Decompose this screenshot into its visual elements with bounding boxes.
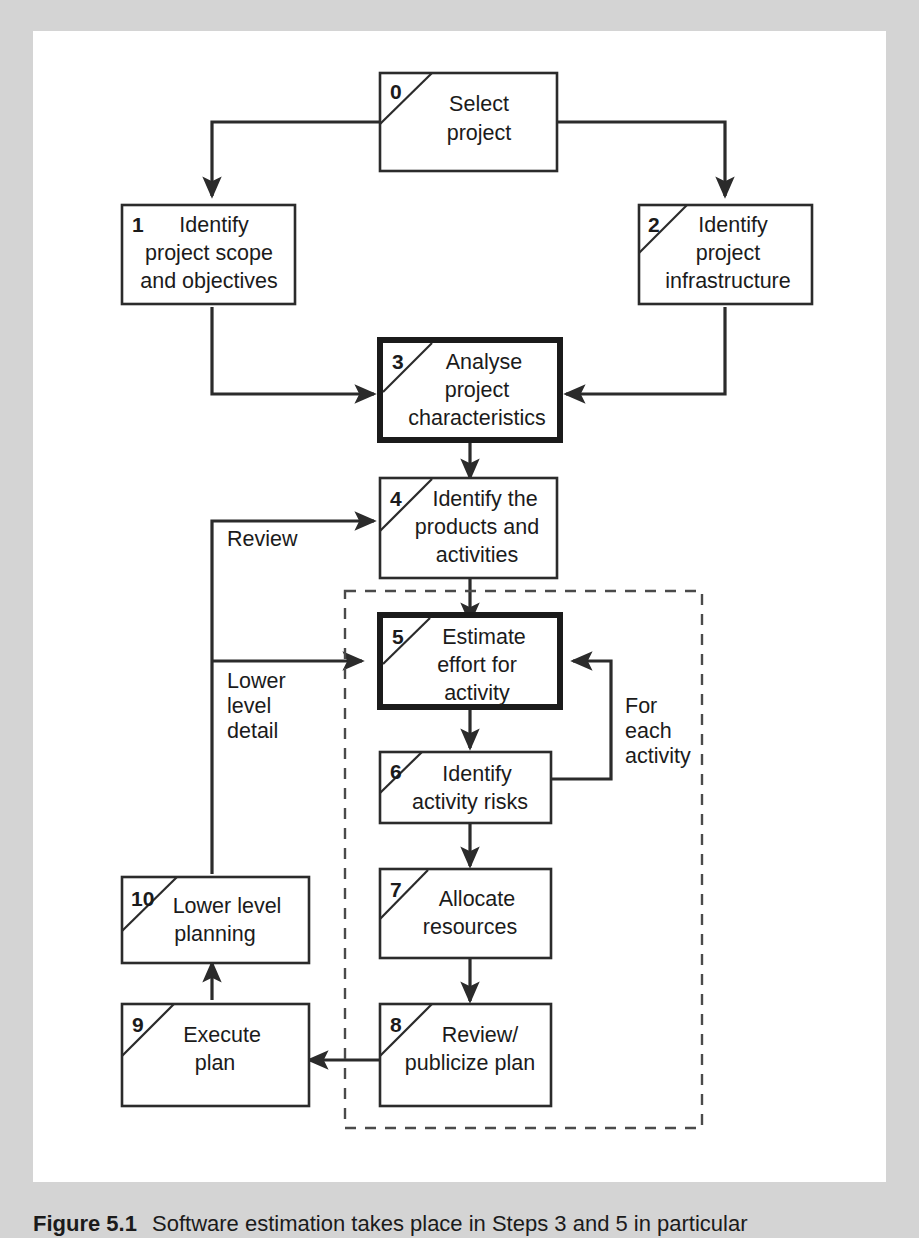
node-7[interactable]: 7 Allocate resources bbox=[380, 869, 551, 958]
node-3-label-line3: characteristics bbox=[408, 406, 545, 430]
node-3[interactable]: 3 Analyse project characteristics bbox=[380, 340, 560, 440]
node-5-label: Estimate bbox=[442, 625, 526, 649]
node-3-label: Analyse bbox=[446, 350, 523, 374]
node-0[interactable]: 0 Select project bbox=[380, 73, 557, 171]
node-0-label: Select bbox=[449, 92, 509, 116]
node-8-label-line2: publicize plan bbox=[405, 1051, 535, 1075]
node-2[interactable]: 2 Identify project infrastructure bbox=[639, 205, 812, 304]
node-4[interactable]: 4 Identify the products and activities bbox=[380, 478, 557, 578]
edge-label-lower-level-line2: level bbox=[227, 694, 271, 718]
edge-0-to-1 bbox=[212, 122, 380, 196]
edge-2-to-3 bbox=[566, 307, 725, 394]
node-7-label-line2: resources bbox=[423, 915, 517, 939]
node-5-number: 5 bbox=[392, 625, 404, 648]
node-8-label: Review/ bbox=[442, 1023, 518, 1047]
node-10-number: 10 bbox=[131, 887, 154, 910]
node-7-label: Allocate bbox=[439, 887, 516, 911]
node-3-number: 3 bbox=[392, 350, 404, 373]
node-5-label-line3: activity bbox=[444, 681, 510, 705]
node-1-label: Identify bbox=[179, 213, 249, 237]
edge-label-for-each-line1: For bbox=[625, 694, 657, 718]
caption-number: Figure 5.1 bbox=[33, 1211, 137, 1236]
node-1-number: 1 bbox=[132, 213, 144, 236]
node-6-label-line2: activity risks bbox=[412, 790, 528, 814]
edge-label-for-each-line2: each bbox=[625, 719, 672, 743]
figure-caption: Figure 5.1 Software estimation takes pla… bbox=[33, 1211, 748, 1236]
node-9-label: Execute bbox=[183, 1023, 261, 1047]
node-2-label-line2: project bbox=[696, 241, 761, 265]
node-2-number: 2 bbox=[648, 213, 660, 236]
node-5-label-line2: effort for bbox=[437, 653, 517, 677]
node-8[interactable]: 8 Review/ publicize plan bbox=[380, 1004, 551, 1106]
node-4-number: 4 bbox=[390, 487, 402, 510]
node-9-label-line2: plan bbox=[195, 1051, 236, 1075]
node-9[interactable]: 9 Execute plan bbox=[122, 1004, 309, 1106]
node-10-label-line2: planning bbox=[174, 922, 255, 946]
node-6-number: 6 bbox=[390, 760, 402, 783]
node-0-number: 0 bbox=[390, 80, 402, 103]
node-10-label: Lower level bbox=[173, 894, 282, 918]
edge-label-lower-level-detail: Lower level detail bbox=[227, 669, 286, 743]
node-8-number: 8 bbox=[390, 1013, 402, 1036]
node-5[interactable]: 5 Estimate effort for activity bbox=[380, 615, 560, 707]
node-4-label-line3: activities bbox=[436, 543, 518, 567]
figure-page: 0 Select project 1 Identify project scop… bbox=[0, 0, 919, 1238]
node-7-number: 7 bbox=[390, 878, 402, 901]
node-7-box[interactable] bbox=[380, 869, 551, 958]
edge-label-for-each-activity: For each activity bbox=[625, 694, 691, 768]
edge-label-for-each-line3: activity bbox=[625, 744, 691, 768]
node-9-number: 9 bbox=[132, 1013, 144, 1036]
node-3-label-line2: project bbox=[445, 378, 510, 402]
edge-0-to-2 bbox=[557, 122, 725, 196]
node-2-label-line3: infrastructure bbox=[665, 269, 790, 293]
node-4-label-line2: products and bbox=[415, 515, 539, 539]
edge-label-review: Review bbox=[227, 527, 298, 551]
edge-1-to-3 bbox=[212, 307, 374, 394]
node-1-label-line2: project scope bbox=[145, 241, 273, 265]
edge-label-review-line1: Review bbox=[227, 527, 298, 551]
node-1[interactable]: 1 Identify project scope and objectives bbox=[122, 205, 295, 304]
node-1-label-line3: and objectives bbox=[140, 269, 277, 293]
node-6[interactable]: 6 Identify activity risks bbox=[380, 752, 551, 823]
caption-text: Software estimation takes place in Steps… bbox=[152, 1211, 748, 1236]
node-4-label: Identify the bbox=[432, 487, 537, 511]
edge-label-lower-level-line3: detail bbox=[227, 719, 278, 743]
node-2-label: Identify bbox=[698, 213, 768, 237]
node-6-label: Identify bbox=[442, 762, 512, 786]
node-0-label-line2: project bbox=[447, 121, 512, 145]
node-10[interactable]: 10 Lower level planning bbox=[122, 877, 309, 963]
edge-label-lower-level-line1: Lower bbox=[227, 669, 286, 693]
flowchart-canvas: 0 Select project 1 Identify project scop… bbox=[0, 0, 919, 1238]
